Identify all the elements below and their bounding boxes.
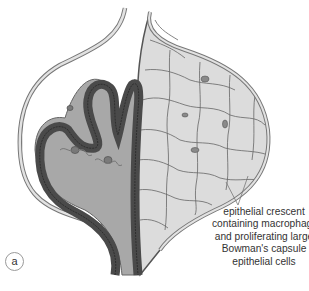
- annotation-line: containing macrophages: [212, 218, 309, 230]
- annotation-line: Bowman's capsule: [212, 243, 309, 255]
- annotation-line: epithelial cells: [212, 256, 309, 268]
- crescent-annotation: epithelial crescent containing macrophag…: [212, 206, 309, 268]
- annotation-line: epithelial crescent: [212, 206, 309, 218]
- panel-label: a: [5, 252, 24, 271]
- annotation-line: and proliferating large: [212, 231, 309, 243]
